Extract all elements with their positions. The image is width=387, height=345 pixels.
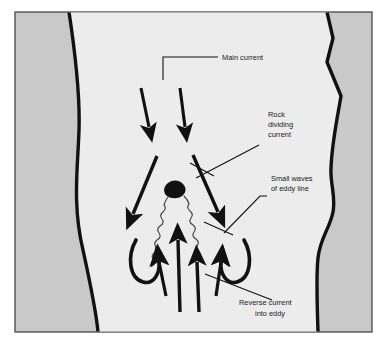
label-waves-line-1: Small waves	[271, 174, 313, 183]
label-small-waves-of-eddy-line: Small waves of eddy line	[271, 174, 313, 193]
label-rock-line-3: current	[268, 130, 291, 139]
river-eddy-diagram: Main current Rock dividing current Small…	[0, 0, 387, 345]
label-rock-line-1: Rock	[268, 110, 285, 119]
label-main-current: Main current	[222, 53, 263, 62]
label-reverse-line-1: Reverse current	[239, 298, 292, 307]
reverse-arrow-3	[197, 262, 199, 312]
label-waves-line-2: of eddy line	[271, 184, 309, 193]
water-channel	[69, 12, 341, 332]
label-rock-line-2: dividing	[268, 120, 293, 129]
label-reverse-line-2: into eddy	[255, 309, 285, 318]
reverse-arrow-2	[178, 240, 180, 312]
